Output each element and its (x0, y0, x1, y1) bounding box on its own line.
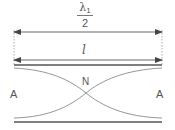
fraction-bar (77, 15, 93, 16)
antinode-right-label: A (156, 89, 163, 100)
node-label: N (82, 77, 89, 87)
lambda-subscript: 1 (86, 6, 90, 15)
half-wavelength-label: λ1 2 (74, 1, 96, 29)
wavelength-numerator: λ1 (74, 1, 96, 14)
wavelength-denominator: 2 (74, 17, 96, 29)
length-label: l (82, 44, 86, 56)
antinode-left-label: A (10, 89, 17, 100)
